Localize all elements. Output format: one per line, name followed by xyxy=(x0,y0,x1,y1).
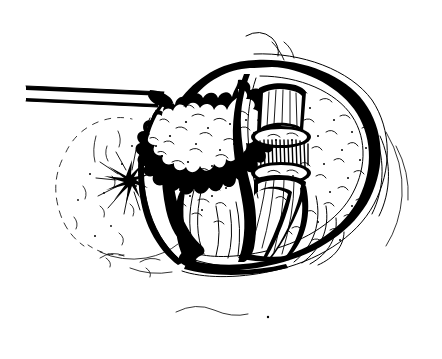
illustration-canvas xyxy=(0,0,442,359)
anatomical-illustration-figure xyxy=(0,0,442,359)
